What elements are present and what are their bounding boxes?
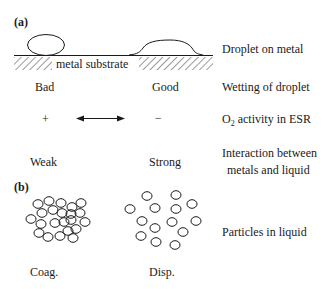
droplet-bad-wetting — [28, 35, 65, 56]
wetting-bad-label: Bad — [35, 81, 54, 93]
row-interaction-description-line1: Interaction between — [222, 147, 317, 159]
o2-suffix: activity in ESR — [235, 112, 311, 126]
particles-description: Particles in liquid — [222, 226, 307, 238]
droplet-good-wetting — [129, 40, 203, 55]
double-arrow-icon — [76, 116, 125, 122]
o2-plus-label: + — [42, 113, 49, 125]
interaction-strong-label: Strong — [149, 156, 181, 168]
disp-caption: Disp. — [149, 266, 175, 278]
panel-b-label: (b) — [14, 181, 29, 193]
substrate-hatch-left — [14, 57, 52, 70]
o2-minus-label: − — [155, 112, 162, 124]
coag-caption: Coag. — [30, 266, 58, 278]
row-wetting-description: Wetting of droplet — [222, 81, 310, 93]
substrate-hatch-right — [139, 57, 213, 70]
particles-coagulated — [26, 197, 90, 243]
row-interaction-description-line2: metals and liquid — [227, 164, 310, 176]
substrate-label: metal substrate — [56, 58, 128, 70]
row-o2-description: O2 activity in ESR — [222, 113, 311, 128]
interaction-weak-label: Weak — [30, 156, 57, 168]
o2-symbol: O — [222, 112, 231, 126]
row-droplet-description: Droplet on metal — [222, 43, 303, 55]
wetting-good-label: Good — [152, 81, 179, 93]
panel-a-label: (a) — [14, 16, 28, 28]
particles-dispersed — [125, 191, 201, 250]
